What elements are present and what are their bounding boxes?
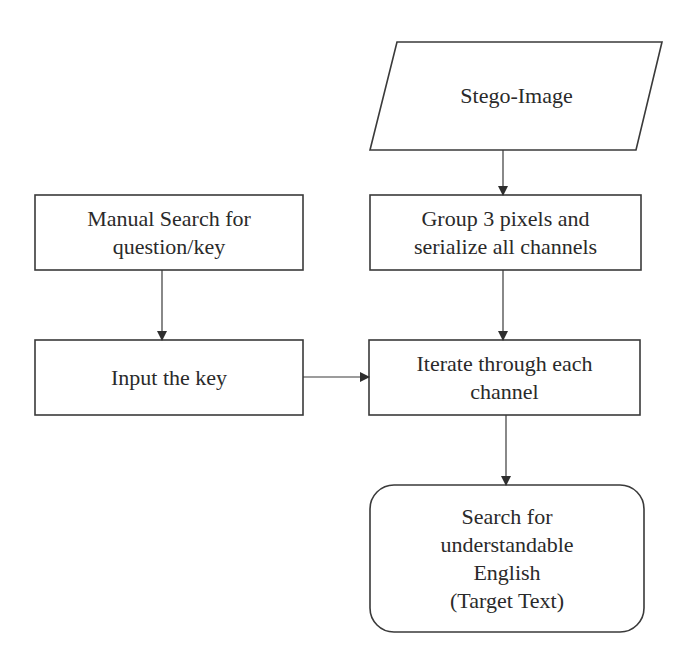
manual-search-label-line-2: question/key: [87, 233, 251, 261]
group-pixels-label-line-2: serialize all channels: [414, 233, 597, 261]
node-manual-search: Manual Search for question/key: [35, 195, 303, 270]
stego-image-label-line-1: Stego-Image: [460, 82, 572, 110]
search-english-label-line-3: English: [440, 559, 573, 587]
search-english-label-line-1: Search for: [440, 503, 573, 531]
node-input-key: Input the key: [35, 340, 303, 415]
manual-search-label-line-1: Manual Search for: [87, 205, 251, 233]
search-english-label-line-2: understandable: [440, 531, 573, 559]
group-pixels-label-line-1: Group 3 pixels and: [414, 205, 597, 233]
node-stego-image: Stego-Image: [384, 42, 649, 150]
search-english-label-line-4: (Target Text): [440, 587, 573, 615]
iterate-channels-label-line-2: channel: [417, 378, 593, 406]
node-iterate-channels: Iterate through each channel: [369, 340, 640, 415]
input-key-label-line-1: Input the key: [111, 364, 227, 392]
node-search-english: Search for understandable English (Targe…: [370, 485, 644, 632]
iterate-channels-label-line-1: Iterate through each: [417, 350, 593, 378]
node-group-pixels: Group 3 pixels and serialize all channel…: [370, 195, 641, 270]
